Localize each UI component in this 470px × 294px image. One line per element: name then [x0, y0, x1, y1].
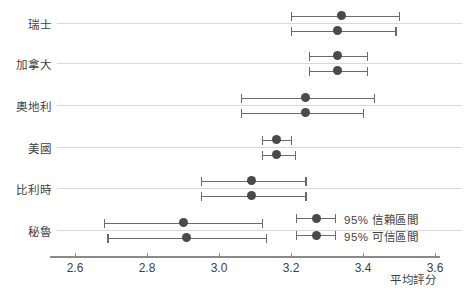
interval-cap-high [305, 192, 306, 201]
x-axis-tick-label: 3.2 [283, 261, 300, 275]
estimate-point [301, 93, 310, 102]
interval-cap-high [367, 67, 368, 76]
gridline-row [57, 188, 462, 189]
estimate-point [179, 218, 188, 227]
interval-cap-high [399, 12, 400, 21]
interval-cap-high [291, 136, 292, 145]
interval-cap-high [395, 27, 396, 36]
x-axis-line [50, 256, 440, 258]
interval-marker [0, 11, 470, 22]
interval-cap-high [363, 109, 364, 118]
estimate-point [333, 26, 342, 35]
legend-label-credible-interval: 95% 可信區間 [344, 228, 418, 244]
interval-cap-high [266, 234, 267, 243]
interval-marker [0, 108, 470, 119]
x-axis-tick [291, 253, 292, 257]
legend-key-icon [296, 230, 336, 241]
legend-key-icon [296, 213, 336, 224]
legend-item-confidence-interval[interactable]: 95% 信賴區間 [296, 210, 418, 227]
x-axis-tick-label: 2.6 [67, 261, 84, 275]
estimate-point [333, 66, 342, 75]
interval-marker [0, 176, 470, 187]
x-axis-tick [219, 253, 220, 257]
interval-cap-low [291, 27, 292, 36]
interval-cap-high [305, 177, 306, 186]
interval-cap-low [291, 12, 292, 21]
x-axis-tick [147, 253, 148, 257]
interval-marker [0, 93, 470, 104]
x-axis-tick-label: 3.0 [211, 261, 228, 275]
estimate-point [337, 11, 346, 20]
interval-cap-low [201, 177, 202, 186]
interval-cap-low [241, 109, 242, 118]
gridline-row [57, 63, 462, 64]
x-axis-tick [363, 253, 364, 257]
legend-item-credible-interval[interactable]: 95% 可信區間 [296, 227, 418, 244]
interval-marker [0, 66, 470, 77]
interval-cap-low [309, 67, 310, 76]
interval-cap-low [104, 219, 105, 228]
interval-range-line [291, 31, 395, 32]
interval-cap-low [107, 234, 108, 243]
interval-marker [0, 135, 470, 146]
gridline-row [57, 105, 462, 106]
interval-cap-high [367, 52, 368, 61]
estimate-point [301, 108, 310, 117]
estimate-point [333, 51, 342, 60]
interval-cap-low [262, 136, 263, 145]
x-axis-title: 平均評分 [390, 271, 436, 287]
interval-marker [0, 51, 470, 62]
estimate-point [182, 233, 191, 242]
estimate-point [247, 176, 256, 185]
interval-marker [0, 150, 470, 161]
legend: 95% 信賴區間 95% 可信區間 [296, 210, 418, 244]
interval-cap-high [295, 151, 296, 160]
legend-label-confidence-interval: 95% 信賴區間 [344, 211, 418, 227]
estimate-point [272, 135, 281, 144]
x-axis-tick [75, 253, 76, 257]
gridline-row [57, 23, 462, 24]
forest-plot-chart: 瑞士加拿大奧地利美國比利時秘魯 2.62.83.03.23.43.6 平均評分 … [0, 0, 470, 294]
interval-marker [0, 191, 470, 202]
estimate-point [272, 150, 281, 159]
interval-cap-low [201, 192, 202, 201]
interval-cap-low [262, 151, 263, 160]
plot-area: 瑞士加拿大奧地利美國比利時秘魯 [0, 0, 470, 294]
gridline-row [57, 147, 462, 148]
x-axis-tick-label: 2.8 [139, 261, 156, 275]
interval-cap-high [374, 94, 375, 103]
interval-marker [0, 26, 470, 37]
x-axis-tick-label: 3.4 [355, 261, 372, 275]
x-axis-tick [435, 253, 436, 257]
interval-cap-high [262, 219, 263, 228]
estimate-point [247, 191, 256, 200]
interval-cap-low [309, 52, 310, 61]
interval-cap-low [241, 94, 242, 103]
